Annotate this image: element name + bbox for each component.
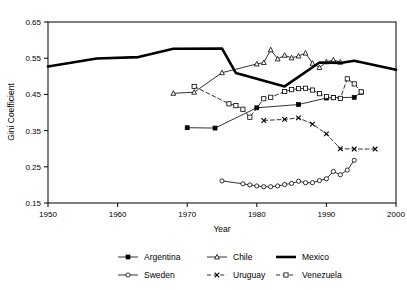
square-open-icon: [227, 102, 231, 106]
legend-item-sweden[interactable]: Sweden: [118, 270, 175, 280]
data-point-marker-triangle-open: [268, 47, 273, 52]
square-open-icon: [359, 90, 363, 94]
data-point-marker-square-open: [241, 107, 245, 111]
data-point-marker-square-open: [359, 90, 363, 94]
x-tick-label: 2000: [387, 210, 405, 219]
data-point-marker-square-filled: [213, 126, 217, 130]
data-point-marker-square-open: [283, 89, 287, 93]
x-tick-label: 1990: [318, 210, 336, 219]
data-point-marker-square-open: [352, 82, 356, 86]
data-point-marker-square-filled: [297, 103, 301, 107]
x-tick-label: 1960: [109, 210, 127, 219]
data-point-marker-circle-open: [262, 185, 266, 189]
y-tick-label: 0.55: [25, 54, 41, 63]
square-open-icon: [338, 96, 342, 100]
legend-label-venezuela: Venezuela: [302, 270, 342, 280]
data-point-marker-triangle-open: [303, 51, 308, 56]
circle-open-icon: [269, 185, 273, 189]
data-series-group: [48, 47, 396, 189]
data-point-marker-square-open: [303, 86, 307, 90]
data-point-marker-square-open: [331, 96, 335, 100]
data-point-marker-circle-open: [310, 181, 314, 185]
data-point-marker-circle-open: [290, 181, 294, 185]
legend-label-mexico: Mexico: [302, 252, 329, 262]
y-tick-label: 0.65: [25, 18, 41, 27]
data-point-marker-circle-open: [283, 182, 287, 186]
data-point-marker-circle-open: [248, 183, 252, 187]
square-filled-icon: [126, 255, 130, 259]
legend-item-mexico[interactable]: Mexico: [276, 252, 329, 262]
x-axis-title: Year: [213, 224, 230, 234]
data-point-marker-circle-open: [331, 169, 335, 173]
square-open-icon: [352, 82, 356, 86]
circle-open-icon: [248, 183, 252, 187]
x-mark-icon: [324, 132, 329, 137]
circle-open-icon: [276, 184, 280, 188]
legend-item-venezuela[interactable]: Venezuela: [276, 270, 342, 280]
y-tick-label: 0.25: [25, 163, 41, 172]
x-axis: 195019601970198019902000: [39, 203, 405, 219]
square-open-icon: [331, 96, 335, 100]
circle-open-icon: [241, 182, 245, 186]
square-open-icon: [324, 94, 328, 98]
square-filled-icon: [213, 126, 217, 130]
data-point-marker-square-open: [262, 97, 266, 101]
legend-label-uruguay: Uruguay: [233, 270, 266, 280]
triangle-open-icon: [303, 51, 308, 56]
data-point-marker-circle-open: [352, 158, 356, 162]
data-point-marker-square-open: [296, 87, 300, 91]
x-tick-label: 1980: [248, 210, 266, 219]
data-point-marker-square-open: [284, 273, 288, 277]
square-open-icon: [248, 115, 252, 119]
square-open-icon: [345, 77, 349, 81]
series-sweden: [220, 158, 356, 189]
series-uruguay: [261, 116, 377, 152]
data-point-marker-square-open: [269, 95, 273, 99]
circle-open-icon: [310, 181, 314, 185]
square-open-icon: [290, 88, 294, 92]
data-point-marker-circle-open: [126, 273, 130, 277]
data-point-marker-triangle-open: [331, 57, 336, 62]
triangle-open-icon: [268, 47, 273, 52]
data-point-marker-square-filled: [126, 255, 130, 259]
legend-label-chile: Chile: [233, 252, 253, 262]
circle-open-icon: [317, 178, 321, 182]
data-point-marker-circle-open: [338, 173, 342, 177]
legend-label-argentina: Argentina: [144, 252, 181, 262]
data-point-marker-square-open: [345, 77, 349, 81]
data-point-marker-square-open: [234, 104, 238, 108]
triangle-open-icon: [331, 57, 336, 62]
data-point-marker-triangle-open: [282, 53, 287, 58]
circle-open-icon: [345, 168, 349, 172]
data-point-marker-square-open: [338, 96, 342, 100]
data-point-marker-square-open: [317, 92, 321, 96]
circle-open-icon: [324, 177, 328, 181]
data-point-marker-triangle-open: [261, 60, 266, 65]
series-venezuela: [192, 77, 363, 120]
data-point-marker-square-filled: [185, 126, 189, 130]
legend-item-argentina[interactable]: Argentina: [118, 252, 181, 262]
data-point-marker-square-filled: [352, 95, 356, 99]
square-open-icon: [284, 273, 288, 277]
series-line-uruguay: [264, 118, 375, 149]
y-tick-label: 0.15: [25, 199, 41, 208]
circle-open-icon: [331, 169, 335, 173]
series-line-mexico: [48, 48, 396, 86]
series-line-chile: [173, 50, 340, 93]
chart-legend: ArgentinaChileMexicoSwedenUruguayVenezue…: [118, 252, 342, 280]
data-point-marker-square-open: [248, 115, 252, 119]
data-point-marker-circle-open: [317, 178, 321, 182]
data-point-marker-square-open: [310, 88, 314, 92]
data-point-marker-circle-open: [255, 184, 259, 188]
data-point-marker-circle-open: [324, 177, 328, 181]
triangle-open-icon: [282, 53, 287, 58]
legend-item-chile[interactable]: Chile: [207, 252, 253, 262]
legend-label-sweden: Sweden: [144, 270, 175, 280]
legend-item-uruguay[interactable]: Uruguay: [207, 270, 266, 280]
data-point-marker-circle-open: [220, 179, 224, 183]
square-filled-icon: [352, 95, 356, 99]
square-open-icon: [262, 97, 266, 101]
circle-open-icon: [338, 173, 342, 177]
data-point-marker-x-mark: [324, 132, 329, 137]
x-mark-icon: [310, 122, 315, 127]
